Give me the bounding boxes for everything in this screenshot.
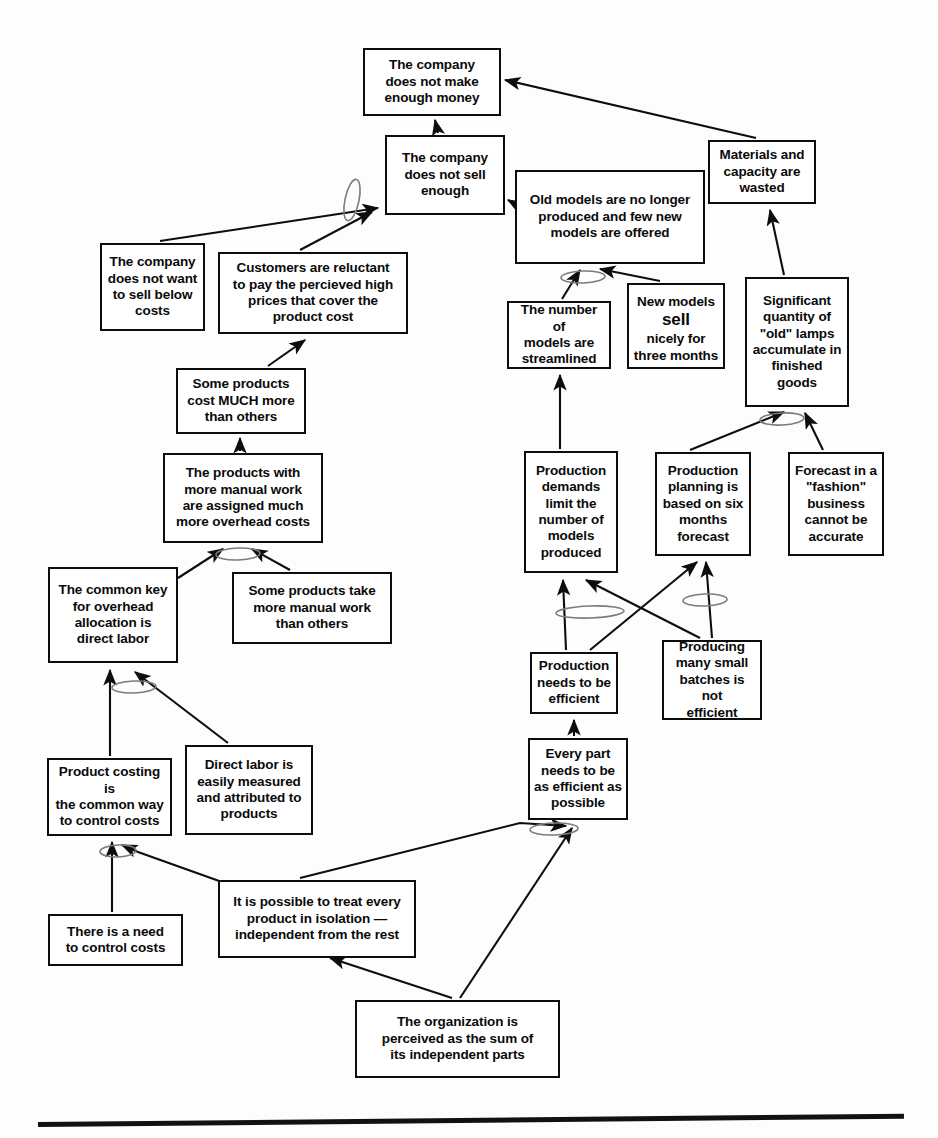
node-n13[interactable]: Production planning is based on six mont…: [655, 452, 751, 556]
node-n8[interactable]: New modelssellnicely forthree months: [627, 283, 725, 369]
node-n24[interactable]: The organization is perceived as the sum…: [355, 1000, 560, 1078]
node-text-line: sell: [662, 310, 690, 329]
edge-batches-to-planning: [706, 562, 712, 638]
edge-isolation-to-costing: [122, 845, 222, 882]
node-n3[interactable]: Old models are no longer produced and fe…: [515, 170, 705, 264]
node-n14[interactable]: Forecast in a "fashion" business cannot …: [788, 452, 884, 556]
edge-directlabor-to-overheadkey: [135, 672, 228, 743]
page-divider-rule: [38, 1114, 904, 1127]
and-connector-old-lamps: [760, 412, 805, 426]
node-n12[interactable]: Production demands limit the number of m…: [524, 451, 618, 573]
and-connector-production-demands: [556, 605, 624, 619]
node-n22[interactable]: It is possible to treat every product in…: [218, 880, 416, 958]
edge-planning-to-oldlamps: [690, 412, 784, 450]
and-connector-overhead-costs: [216, 547, 260, 561]
node-n18[interactable]: Producing many small batches is not effi…: [662, 640, 762, 720]
edge-cost-much-to-customers: [268, 340, 305, 366]
node-n21[interactable]: Every part needs to be as efficient as p…: [528, 738, 628, 820]
edge-prodeff-to-demands: [563, 580, 566, 650]
edge-overheadkey-to-products: [178, 549, 223, 578]
node-n16[interactable]: Some products take more manual work than…: [232, 572, 392, 644]
node-n6[interactable]: Customers are reluctant to pay the perci…: [218, 252, 408, 334]
edge-sell-to-money: [435, 120, 438, 133]
node-n23[interactable]: There is a need to control costs: [48, 914, 183, 966]
edge-forecast-to-oldlamps: [805, 413, 823, 450]
node-n19[interactable]: Product costing is the common way to con…: [47, 758, 172, 836]
edge-batches-to-demands: [586, 580, 700, 638]
node-n15[interactable]: The common key for overhead allocation i…: [48, 567, 178, 663]
node-text-line: nicely for: [646, 331, 705, 346]
edge-manualwork-to-products: [252, 549, 290, 570]
node-n4[interactable]: Materials and capacity are wasted: [708, 140, 816, 204]
diagram-canvas: The company does not make enough moneyTh…: [0, 0, 938, 1138]
and-connector-every-part: [530, 822, 578, 836]
edge-below-costs-to-sell: [160, 208, 378, 241]
node-n5[interactable]: The company does not want to sell below …: [100, 243, 205, 331]
and-connector-product-costing: [100, 844, 136, 857]
edge-customers-to-sell: [300, 212, 372, 250]
edge-waste-to-money: [505, 80, 756, 138]
node-n7[interactable]: The number of models are streamlined: [507, 301, 611, 369]
node-n11[interactable]: The products with more manual work are a…: [163, 453, 323, 543]
edge-newmodels-to-oldmodels: [600, 269, 660, 281]
node-text-line: three months: [634, 348, 718, 363]
edge-isolation-to-everypart: [300, 823, 566, 878]
and-connector-sell-enough: [341, 178, 363, 222]
edge-organization-to-isolation: [330, 958, 452, 998]
and-connector-old-models: [561, 270, 605, 284]
node-n2[interactable]: The company does not sell enough: [385, 135, 505, 215]
and-connector-production-planning: [683, 593, 727, 607]
edge-prodeff-to-planning: [590, 562, 697, 650]
edge-organization-to-everypart: [460, 828, 572, 998]
node-n17[interactable]: Production needs to be efficient: [530, 652, 618, 714]
node-n10[interactable]: Some products cost MUCH more than others: [176, 368, 306, 434]
edge-oldlamps-to-waste: [770, 210, 784, 275]
node-n20[interactable]: Direct labor is easily measured and attr…: [185, 745, 313, 835]
node-n9[interactable]: Significant quantity of "old" lamps accu…: [745, 277, 849, 407]
node-text-line: New models: [637, 294, 715, 309]
and-connector-overhead-key: [112, 680, 156, 694]
edge-streamlined-to-oldmodels: [562, 270, 580, 299]
node-n1[interactable]: The company does not make enough money: [363, 48, 501, 116]
